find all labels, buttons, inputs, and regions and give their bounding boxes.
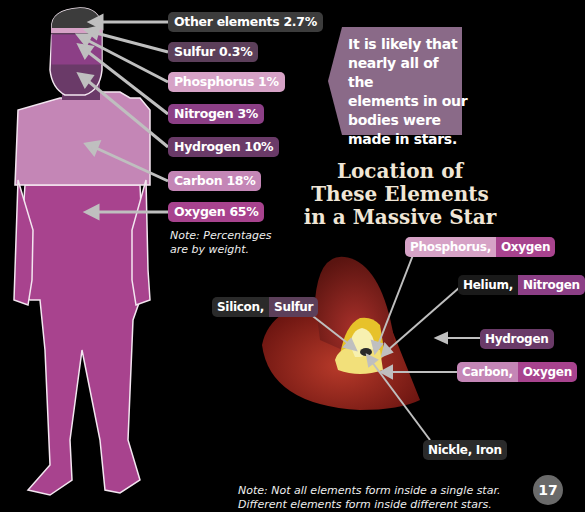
label-phosphorus-oxygen: Phosphorus, Oxygen <box>405 237 555 257</box>
star-note: Note: Not all elements form inside a sin… <box>238 484 500 512</box>
percentage-note: Note: Percentages are by weight. <box>170 229 272 257</box>
callout-text: It is likely that nearly all of the elem… <box>348 35 468 149</box>
label-silicon-sulfur: Silicon, Sulfur <box>212 297 318 317</box>
page-number: 17 <box>533 475 563 505</box>
star-diagram-title: Location of These Elements in a Massive … <box>300 160 500 229</box>
star-cutaway <box>262 257 420 410</box>
label-carbon-oxygen: Carbon, Oxygen <box>457 362 577 382</box>
label-nitrogen: Nitrogen 3% <box>168 104 264 124</box>
label-phosphorus: Phosphorus 1% <box>168 72 285 92</box>
label-helium-nitrogen: Helium, Nitrogen <box>458 275 585 295</box>
label-hydrogen-star: Hydrogen <box>480 329 554 349</box>
label-other-elements: Other elements 2.7% <box>168 12 323 32</box>
label-carbon: Carbon 18% <box>168 171 261 191</box>
label-oxygen: Oxygen 65% <box>168 202 264 222</box>
label-nickle-iron: Nickle, Iron <box>423 440 507 460</box>
label-sulfur: Sulfur 0.3% <box>168 42 258 62</box>
label-hydrogen: Hydrogen 10% <box>168 137 279 157</box>
